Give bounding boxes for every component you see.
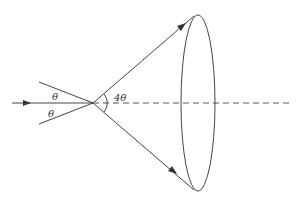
- upper-incident-line: [39, 82, 93, 103]
- lower-cone-ray: [93, 103, 194, 190]
- cone-diagram: θ θ 4θ: [0, 0, 297, 205]
- cone-angle-label: 4θ: [113, 92, 126, 103]
- lower-cone-arrow-icon: [168, 166, 177, 174]
- theta-lower-label: θ: [48, 108, 54, 119]
- upper-cone-ray: [93, 16, 194, 103]
- theta-upper-label: θ: [52, 91, 58, 102]
- incident-arrow-icon: [23, 100, 31, 106]
